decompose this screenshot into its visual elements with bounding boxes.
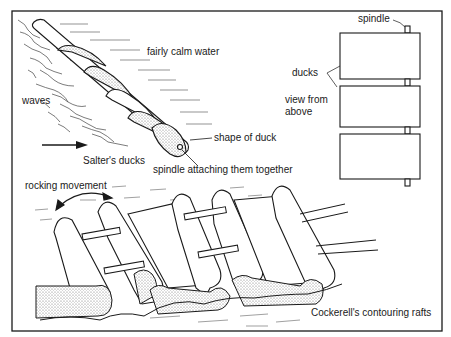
top-view-drawing: [340, 26, 420, 186]
spindle-stub-top: [405, 26, 410, 33]
lower-water-dashes: [150, 314, 300, 326]
spindle-joint-2: [405, 127, 410, 134]
label-spindle-attaching: spindle attaching them together: [153, 164, 293, 175]
label-above: above: [285, 106, 312, 117]
wave-direction-arrow: [42, 141, 88, 149]
ducks-label-leader: [327, 66, 340, 87]
label-spindle: spindle: [358, 13, 390, 24]
duck-box-1: [340, 33, 420, 79]
shape-leader: [190, 138, 212, 140]
label-ducks: ducks: [292, 67, 318, 78]
label-cockerells-rafts: Cockerell's contouring rafts: [311, 307, 431, 318]
label-shape-of-duck: shape of duck: [214, 132, 276, 143]
label-view-from: view from: [285, 94, 328, 105]
spindle-joint-1: [405, 79, 410, 86]
label-waves: waves: [22, 95, 50, 106]
label-rocking-movement: rocking movement: [25, 180, 107, 191]
label-fairly-calm-water: fairly calm water: [147, 46, 219, 57]
duck-box-3: [340, 134, 420, 179]
duck-box-2: [340, 86, 420, 127]
label-salters-ducks: Salter's ducks: [83, 155, 145, 166]
spindle-stub-bottom: [405, 179, 410, 186]
spindle-label-leader: [393, 20, 405, 27]
